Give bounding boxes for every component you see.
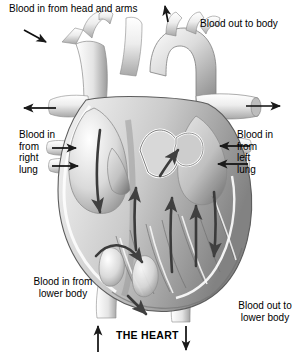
label-blood-out-to-lower-body: Blood out to lower body [228,300,302,323]
heart-diagram-figure: Blood in from head and arms Blood out to… [0,0,304,356]
arrow-head-and-arms [24,30,46,42]
label-blood-in-from-left-lung: Blood in from left lung [237,129,273,175]
arrow-out-to-body [165,6,168,22]
label-blood-in-head-and-arms: Blood in from head and arms [9,3,137,15]
figure-title-the-heart: THE HEART [116,330,179,342]
label-blood-out-to-body: Blood out to body [200,18,278,30]
label-blood-in-from-right-lung: Blood in from right lung [19,129,55,175]
label-blood-in-from-lower-body: Blood in from lower body [8,276,118,299]
